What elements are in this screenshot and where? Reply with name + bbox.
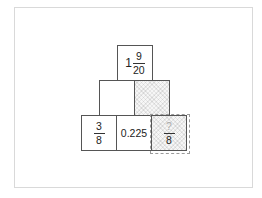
pyramid-bottom-cell-left: 3 8 — [81, 115, 117, 151]
highlight-outline — [150, 114, 190, 154]
fraction: 3 8 — [94, 121, 105, 145]
denominator: 20 — [133, 64, 145, 76]
pyramid-bottom-cell-middle: 0.225 — [116, 115, 152, 151]
numerator: 3 — [95, 121, 103, 133]
numerator: 9 — [135, 51, 143, 63]
decimal-value: 0.225 — [121, 127, 147, 139]
fraction: 9 20 — [133, 51, 145, 75]
pyramid-middle-cell-right[interactable] — [134, 80, 170, 116]
whole-part: 1 — [125, 56, 132, 70]
pyramid-middle-cell-left[interactable] — [99, 80, 135, 116]
denominator: 8 — [96, 134, 102, 146]
mixed-number: 1 9 20 — [125, 51, 144, 75]
pyramid-top-cell: 1 9 20 — [117, 45, 153, 81]
